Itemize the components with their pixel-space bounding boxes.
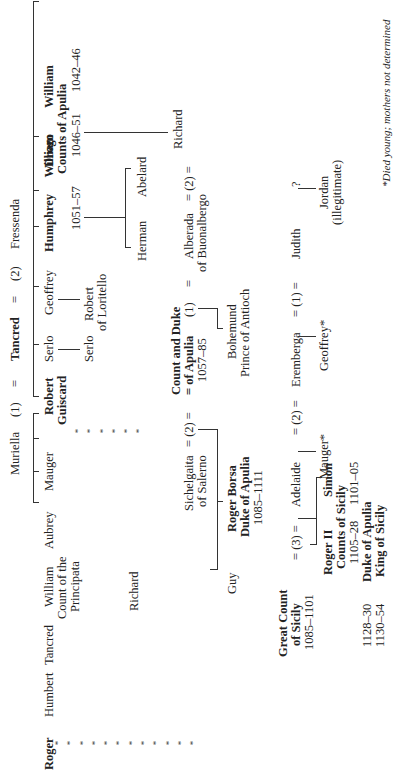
tick [33, 344, 39, 345]
sichelgaita-eq: = (2) = [183, 412, 196, 447]
alberada-of: of Buonalbergo [196, 194, 209, 272]
judith: Judith [290, 228, 303, 259]
m1: (1) [183, 302, 196, 317]
bohemund-line-v [198, 308, 218, 309]
equals-sign: = [9, 296, 22, 303]
marriage-1-label: (1) [9, 402, 22, 417]
muriella: Muriella [9, 432, 22, 475]
aubrey: Aubrey [43, 512, 56, 550]
roger-borsa-dates: 1085–1111 [252, 470, 265, 525]
great-count-dates: 1085–1101 [303, 594, 316, 650]
tick [33, 502, 39, 503]
bracket-line [33, 2, 34, 397]
unknown-partner: ? [290, 181, 303, 187]
tick [33, 438, 39, 439]
tick [33, 136, 39, 137]
eremberga: Eremberga [290, 332, 303, 387]
william-principata-title2: Principata [69, 561, 82, 612]
king-of-sicily-title: King of Sicily [374, 505, 387, 577]
adelaide-children-bracket [316, 477, 317, 545]
robert-of-loritello-2: of Loritello [96, 274, 109, 331]
sichelgaita-of: of Salerno [196, 455, 209, 507]
bracket-line [33, 413, 34, 503]
tick [33, 396, 39, 397]
adelaide-line-v [298, 518, 316, 519]
marriage-2-label: (2) [9, 266, 22, 281]
tancred-patriarch: Tancred [9, 317, 22, 361]
humphrey-line [84, 217, 126, 218]
eq: = [183, 280, 196, 287]
roger-dotted-line: * * * * * * * * * * * * [52, 739, 192, 747]
tick [33, 226, 39, 227]
guiscard-dates: 1057–85 [196, 338, 209, 382]
tick [33, 190, 39, 191]
judith-eq: = (1) = [290, 282, 303, 317]
mauger: Mauger [43, 452, 56, 491]
richard-principata-son: Richard [128, 571, 141, 611]
guy-tick [210, 569, 218, 570]
humphrey-dates: 1051–57 [70, 186, 83, 230]
equals-sign: = [9, 380, 22, 387]
geoffrey-line [58, 299, 80, 300]
tancred-son: Tancred [43, 625, 56, 665]
tick [125, 247, 131, 248]
jordan-line [298, 188, 316, 189]
bohemund-tick [217, 328, 223, 329]
simon-dates: 1101–05 [348, 462, 361, 505]
sichelgaita-children-bracket [217, 430, 218, 570]
humphrey-children-bracket [125, 168, 126, 248]
adelaide: Adelaide [290, 462, 303, 507]
humphrey: Humphrey [43, 194, 56, 252]
fressenda: Fressenda [9, 199, 22, 249]
richard-drogo-son: Richard [172, 109, 185, 149]
humbert: Humbert [43, 673, 56, 717]
sichelgaita-line-v [198, 429, 218, 430]
tick [33, 413, 39, 414]
tick [33, 1, 39, 2]
herman: Herman [136, 221, 149, 261]
king-dates: 1130–54 [374, 604, 387, 647]
robert-guiscard-2: Guiscard [56, 376, 69, 425]
drogo-richard-line [84, 132, 168, 133]
geoffrey2-line [298, 336, 316, 337]
jordan-note: (illegitimate) [331, 160, 344, 225]
abelard: Abelard [136, 157, 149, 197]
guy: Guy [226, 572, 239, 594]
tick [125, 168, 131, 169]
adelaide-eq: = (3) = [290, 525, 303, 560]
footnote: *Died young; mothers not determined [380, 20, 393, 187]
guiscard-dotted-line: * * * * * * [72, 427, 152, 435]
roger2-tick [310, 544, 317, 545]
william-dates: 1042–46 [70, 48, 83, 92]
geoffrey: Geoffrey [43, 270, 56, 315]
serlo-son: Serlo [83, 336, 96, 362]
drogo-dates: 1046–51 [70, 113, 83, 157]
tick [33, 286, 39, 287]
tick [33, 471, 39, 472]
counts-of-apulia-label: Counts of Apulia [56, 84, 69, 174]
serlo: Serlo [43, 336, 56, 362]
bohemund-line-h [217, 309, 218, 329]
serlo-line [58, 349, 80, 350]
mauger2-line [298, 451, 316, 452]
bohemund-title: Prince of Antioch [239, 289, 252, 377]
borsa-tick [217, 501, 223, 502]
eremberga-eq: = (2) = [290, 400, 303, 435]
geoffrey-star: Geoffrey* [318, 320, 331, 371]
